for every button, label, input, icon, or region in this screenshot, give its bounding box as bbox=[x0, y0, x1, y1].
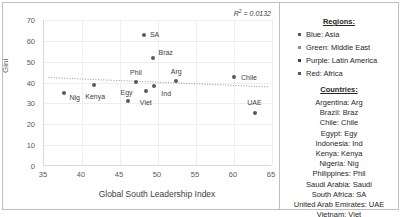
data-point[interactable] bbox=[142, 33, 146, 37]
figure-frame: R2 = 0.0132 Gini Global South Leadership… bbox=[2, 2, 399, 210]
legend-region-item: Purple: Latin America bbox=[298, 56, 394, 65]
data-point[interactable] bbox=[62, 91, 66, 95]
data-point[interactable] bbox=[151, 56, 155, 60]
data-point-label: UAE bbox=[247, 99, 261, 106]
legend-country-item: Argentina: Arg bbox=[284, 98, 394, 108]
data-point[interactable] bbox=[126, 99, 130, 103]
legend-square-icon bbox=[298, 33, 301, 36]
legend-regions-list: Blue: AsiaGreen: Middle EastPurple: Lati… bbox=[284, 30, 394, 78]
legend-region-label: Red: Africa bbox=[306, 69, 343, 78]
y-tick-label: 50 bbox=[5, 57, 35, 66]
y-tick-label: 30 bbox=[5, 99, 35, 108]
legend-regions-heading: Regions: bbox=[284, 17, 394, 26]
legend-square-icon bbox=[298, 72, 301, 75]
legend-square-icon bbox=[298, 46, 301, 49]
scatter-chart-panel: R2 = 0.0132 Gini Global South Leadership… bbox=[3, 3, 279, 209]
legend-country-item: Egypt: Egy bbox=[284, 129, 394, 139]
y-tick-label: 20 bbox=[5, 120, 35, 129]
legend-region-label: Green: Middle East bbox=[306, 43, 370, 52]
r-squared-value: = 0.0132 bbox=[242, 10, 271, 17]
data-point[interactable] bbox=[253, 111, 257, 115]
legend-countries-heading: Countries: bbox=[284, 85, 394, 94]
data-point-label: SA bbox=[150, 31, 159, 38]
legend-countries-list: Argentina: ArgBrazil: BrazChile: ChileEg… bbox=[284, 98, 394, 214]
legend-country-item: Philippines: Phil bbox=[284, 169, 394, 179]
y-tick-label: 60 bbox=[5, 36, 35, 45]
x-tick-label: 50 bbox=[142, 170, 172, 179]
legend-region-label: Purple: Latin America bbox=[306, 56, 377, 65]
data-point[interactable] bbox=[144, 89, 148, 93]
data-point-label: Ind bbox=[161, 90, 171, 97]
y-tick-label: 70 bbox=[5, 16, 35, 25]
data-point-label: Phil bbox=[130, 68, 142, 75]
data-point-label: Kenya bbox=[85, 93, 105, 100]
legend-country-item: Nigeria: Nig bbox=[284, 159, 394, 169]
plot-area: NigKenyaEgyPhilSAVietBrazIndArgChileUAE bbox=[43, 20, 271, 166]
x-axis-title: Global South Leadership Index bbox=[43, 189, 271, 199]
legend-square-icon bbox=[298, 59, 301, 62]
data-point-label: Braz bbox=[158, 48, 172, 55]
legend-country-item: Chile: Chile bbox=[284, 118, 394, 128]
x-tick-label: 45 bbox=[104, 170, 134, 179]
x-tick-label: 35 bbox=[28, 170, 58, 179]
data-point[interactable] bbox=[232, 75, 236, 79]
data-point-label: Viet bbox=[140, 99, 152, 106]
x-tick-label: 55 bbox=[180, 170, 210, 179]
legend-region-label: Blue: Asia bbox=[306, 30, 339, 39]
legend-country-item: Vietnam: Viet bbox=[284, 210, 394, 214]
data-point[interactable] bbox=[152, 84, 156, 88]
x-tick-label: 40 bbox=[66, 170, 96, 179]
gridline-vertical bbox=[272, 20, 273, 165]
legend-region-item: Green: Middle East bbox=[298, 43, 394, 52]
legend-region-item: Red: Africa bbox=[298, 69, 394, 78]
x-tick-label: 60 bbox=[218, 170, 248, 179]
legend-panel: Regions: Blue: AsiaGreen: Middle EastPur… bbox=[279, 3, 398, 209]
y-tick-label: 10 bbox=[5, 141, 35, 150]
legend-country-item: United Arab Emirates: UAE bbox=[284, 200, 394, 210]
data-point-label: Chile bbox=[241, 74, 257, 81]
r-squared-annotation: R2 = 0.0132 bbox=[234, 8, 271, 17]
data-point[interactable] bbox=[92, 83, 96, 87]
y-tick-label: 40 bbox=[5, 78, 35, 87]
legend-country-item: Kenya: Kenya bbox=[284, 149, 394, 159]
data-point-label: Nig bbox=[69, 94, 80, 101]
legend-country-item: Brazil: Braz bbox=[284, 108, 394, 118]
data-point[interactable] bbox=[174, 79, 178, 83]
legend-country-item: Indonesia: Ind bbox=[284, 139, 394, 149]
legend-country-item: Saudi Arabia: Saudi bbox=[284, 180, 394, 190]
data-point-label: Egy bbox=[121, 88, 133, 95]
data-point-label: Arg bbox=[171, 68, 182, 75]
legend-region-item: Blue: Asia bbox=[298, 30, 394, 39]
legend-country-item: South Africa: SA bbox=[284, 190, 394, 200]
data-point[interactable] bbox=[134, 80, 138, 84]
